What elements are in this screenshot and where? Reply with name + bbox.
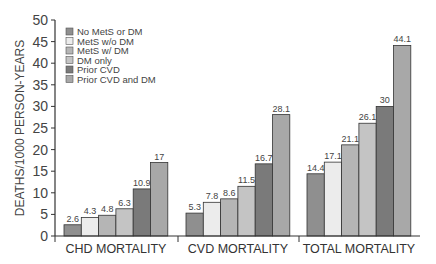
y-tick-label: 15 [32,163,48,179]
y-tick-label: 20 [32,142,48,158]
bar-value-label: 16.7 [255,153,273,163]
y-axis: 05101520253035404550 [32,12,55,244]
bar [64,225,81,236]
bar [151,163,168,236]
legend-label: Prior CVD and DM [77,74,156,85]
bar [307,174,324,236]
bar-value-label: 11.5 [238,175,255,185]
bar [221,199,238,236]
bar [324,162,341,236]
y-tick-label: 10 [32,185,48,201]
bar [255,164,272,236]
bar [238,186,255,236]
bar-value-label: 21.1 [341,134,359,144]
bar-value-label: 14.4 [307,163,325,173]
y-tick-label: 45 [32,34,48,50]
legend: No MetS or DMMetS w/o DMMetS w/ DMDM onl… [66,26,156,85]
bar [394,45,411,236]
bar-value-label: 8.6 [223,188,236,198]
y-axis-label: DEATHS/1000 PERSON-YEARS [13,40,27,217]
bar [186,213,203,236]
x-category-label: CHD MORTALITY [65,242,167,256]
legend-swatch [66,38,73,45]
bar-value-label: 17.1 [324,151,342,161]
bar [116,209,133,236]
bar [81,217,98,236]
y-tick-label: 30 [32,98,48,114]
bar-value-label: 44.1 [393,34,411,44]
bar-value-label: 4.3 [84,206,97,216]
legend-swatch [66,28,73,35]
bar [376,106,393,236]
bar-value-label: 30 [380,95,390,105]
bar-chart: 05101520253035404550 2.64.34.86.310.9175… [0,0,436,264]
bar [342,145,359,236]
y-tick-label: 40 [32,55,48,71]
y-tick-label: 0 [40,228,48,244]
bar-value-label: 7.8 [206,191,219,201]
bar-value-label: 10.9 [133,178,151,188]
bar [203,202,220,236]
x-category-label: CVD MORTALITY [188,242,289,256]
legend-swatch [66,66,73,73]
bar-value-label: 28.1 [272,104,290,114]
bar-value-label: 2.6 [66,214,79,224]
bar-value-label: 17 [154,152,164,162]
y-tick-label: 5 [40,206,48,222]
y-tick-label: 25 [32,120,48,136]
bar [133,189,150,236]
y-tick-label: 50 [32,12,48,28]
legend-swatch [66,47,73,54]
y-tick-label: 35 [32,77,48,93]
bar-value-label: 5.3 [188,202,201,212]
bar-value-label: 6.3 [118,198,131,208]
x-axis: CHD MORTALITYCVD MORTALITYTOTAL MORTALIT… [55,236,420,256]
bar [99,215,116,236]
bar-value-label: 4.8 [101,204,114,214]
bar-value-label: 26.1 [359,112,377,122]
legend-swatch [66,76,73,83]
bar [359,123,376,236]
x-category-label: TOTAL MORTALITY [303,242,416,256]
legend-swatch [66,57,73,64]
bar [273,115,290,236]
